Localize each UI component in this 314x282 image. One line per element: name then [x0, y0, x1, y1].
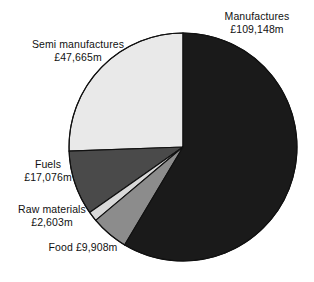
pie-label-manufactures-name: Manufactures [204, 10, 310, 23]
pie-label-semi-manufactures-name: Semi manufactures [14, 38, 142, 51]
pie-label-food-name: Food £9,908m [28, 241, 138, 254]
pie-label-fuels: Fuels £17,076m [6, 158, 90, 183]
pie-label-semi-manufactures: Semi manufactures £47,665m [14, 38, 142, 63]
pie-label-fuels-name: Fuels [6, 158, 90, 171]
pie-label-semi-manufactures-value: £47,665m [14, 51, 142, 64]
pie-label-food: Food £9,908m [28, 241, 138, 254]
pie-label-manufactures: Manufactures £109,148m [204, 10, 310, 35]
pie-label-manufactures-value: £109,148m [204, 23, 310, 36]
pie-label-fuels-value: £17,076m [6, 171, 90, 184]
pie-label-raw-materials-value: £2,603m [2, 216, 102, 229]
pie-label-raw-materials-name: Raw materials [2, 203, 102, 216]
pie-chart: Manufactures £109,148m Semi manufactures… [0, 0, 314, 282]
pie-label-raw-materials: Raw materials £2,603m [2, 203, 102, 228]
